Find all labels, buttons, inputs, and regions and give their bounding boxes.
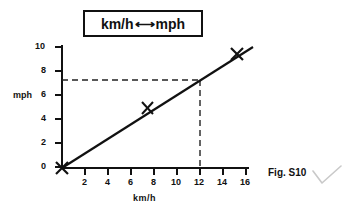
x-tick-label-4: 4 bbox=[105, 178, 110, 187]
title-text: km/h⟷mph bbox=[101, 17, 185, 31]
x-tick-label-6: 6 bbox=[128, 178, 133, 187]
x-tick-label-12: 12 bbox=[194, 178, 204, 187]
x-tick-label-10: 10 bbox=[171, 178, 181, 187]
x-axis-label: km/h bbox=[133, 193, 156, 203]
x-axis-ticks bbox=[85, 168, 246, 175]
check-mark-icon bbox=[312, 165, 342, 187]
figure-root: km/h⟷mph 0 2 4 6 8 10 2 4 6 8 10 12 14 1… bbox=[0, 0, 348, 216]
x-tick-label-2: 2 bbox=[82, 178, 87, 187]
title-box: km/h⟷mph bbox=[83, 10, 203, 37]
y-tick-label-4: 4 bbox=[41, 114, 46, 123]
x-tick-label-14: 14 bbox=[217, 178, 227, 187]
y-axis-label: mph bbox=[13, 90, 32, 100]
x-tick-label-8: 8 bbox=[151, 178, 156, 187]
double-arrow-icon: ⟷ bbox=[134, 17, 156, 31]
y-axis-ticks bbox=[55, 47, 62, 167]
y-tick-label-0: 0 bbox=[41, 162, 46, 171]
marker-point-8 bbox=[142, 102, 153, 114]
figure-caption: Fig. S10 bbox=[268, 167, 306, 178]
x-tick-label-16: 16 bbox=[240, 178, 250, 187]
title-right-unit: mph bbox=[156, 16, 186, 32]
y-tick-label-2: 2 bbox=[41, 138, 46, 147]
title-left-unit: km/h bbox=[101, 16, 134, 32]
y-tick-label-6: 6 bbox=[41, 90, 46, 99]
conversion-line bbox=[62, 47, 253, 168]
y-tick-label-10: 10 bbox=[35, 42, 45, 51]
y-tick-label-8: 8 bbox=[41, 66, 46, 75]
